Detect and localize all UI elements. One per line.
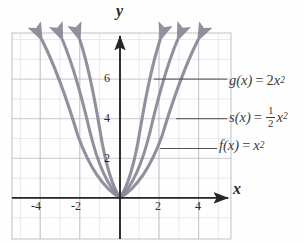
parabola-graph-figure: y x -4 -2 2 4 6 4 2 g(x) = 2 x 2 s(x) = … (0, 0, 304, 243)
x-tick-label-4: 4 (195, 199, 201, 214)
curve-label-s-fn: s(x) (229, 110, 251, 125)
curve-label-g-exponent: 2 (280, 76, 285, 86)
curve-label-f-exponent: 2 (260, 141, 265, 151)
curve-label-g-coef: 2 (267, 73, 274, 88)
curve-label-s: s(x) = 1 2 x 2 (229, 105, 288, 129)
y-tick-label-4: 4 (104, 111, 110, 126)
fraction-denominator: 2 (266, 118, 276, 130)
curve-label-s-eq: = (254, 110, 262, 125)
curve-label-s-exponent: 2 (283, 112, 288, 122)
x-axis-label: x (233, 180, 241, 198)
x-tick-label-neg4: -4 (31, 199, 41, 214)
curve-label-f: f(x) = x 2 (219, 138, 265, 153)
fraction-numerator: 1 (266, 105, 276, 117)
curve-label-s-fraction: 1 2 (266, 105, 276, 129)
curve-label-g: g(x) = 2 x 2 (229, 73, 285, 88)
y-tick-label-6: 6 (104, 71, 110, 86)
curve-label-f-eq: = (242, 138, 250, 153)
y-tick-label-2: 2 (104, 151, 110, 166)
curve-label-f-fn: f(x) (219, 138, 239, 153)
x-tick-label-neg2: -2 (71, 199, 81, 214)
curve-label-g-fn: g(x) (229, 73, 252, 88)
curve-label-g-eq: = (255, 73, 263, 88)
y-axis-label: y (116, 2, 123, 20)
x-tick-label-2: 2 (155, 199, 161, 214)
